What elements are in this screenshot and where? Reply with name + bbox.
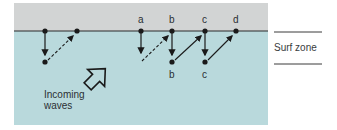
shore-label-b: b	[169, 14, 175, 25]
surf-zone-label: Surf zone	[274, 42, 317, 53]
incoming-waves-label-line1: Incoming	[44, 89, 85, 100]
shore-label-a: a	[138, 14, 144, 25]
offshore-label-b: b	[169, 69, 175, 80]
offshore-label-c: c	[202, 69, 207, 80]
shore-label-c: c	[202, 14, 207, 25]
shore-label-d: d	[233, 14, 239, 25]
longshore-drift-diagram: Surf zone Incoming waves a b c d b	[0, 0, 337, 130]
incoming-waves-label-line2: waves	[43, 100, 72, 111]
